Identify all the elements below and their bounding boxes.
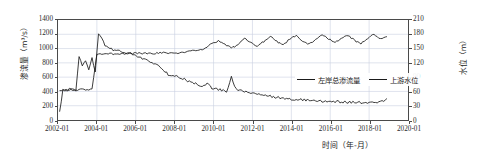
y-axis-left-tick-label: 1000 (27, 44, 53, 52)
y-axis-left-tick-mark (55, 63, 58, 64)
y-axis-right-tick-mark (409, 106, 412, 107)
x-axis-title: 时间（年-月） (322, 139, 373, 150)
y-axis-right-tick-label: 30 (413, 102, 420, 110)
x-axis-tick-mark (292, 121, 293, 124)
y-axis-left-tick-mark (55, 92, 58, 93)
y-axis-right-tick-mark (409, 34, 412, 35)
y-axis-right-tick-label: 60 (413, 88, 420, 96)
legend-label-seepage: 左岸总渗流量 (318, 74, 360, 85)
y-axis-right-tick-mark (409, 63, 412, 64)
y-axis-right-title: 水位（m） (457, 25, 468, 87)
y-axis-left-tick-label: 400 (27, 88, 53, 96)
y-axis-left-tick-mark (55, 34, 58, 35)
plot-area (57, 19, 409, 121)
x-axis-tick-mark (135, 121, 136, 124)
y-axis-left-tick-label: 200 (27, 102, 53, 110)
x-axis-tick-label: 2014-01 (273, 125, 311, 133)
x-axis-tick-label: 2008-01 (155, 125, 193, 133)
x-axis-tick-mark (57, 121, 58, 124)
series-lines (58, 20, 408, 120)
x-axis-tick-label: 2002-01 (38, 125, 76, 133)
legend-swatch-waterlevel (369, 79, 387, 80)
x-axis-tick-mark (174, 121, 175, 124)
y-axis-left-tick-label: 1400 (27, 15, 53, 23)
y-axis-left-tick-label: 0 (27, 117, 53, 125)
y-axis-left-tick-mark (55, 106, 58, 107)
x-axis-tick-mark (409, 121, 410, 124)
legend-item-seepage: 左岸总渗流量 (297, 74, 360, 85)
y-axis-left-tick-mark (55, 19, 58, 20)
x-axis-tick-mark (213, 121, 214, 124)
chart-legend: 左岸总渗流量 上游水位 (295, 73, 420, 86)
y-axis-right-tick-label: 210 (413, 15, 424, 23)
x-axis-tick-label: 2006-01 (116, 125, 154, 133)
x-axis-tick-label: 2010-01 (194, 125, 232, 133)
y-axis-left-tick-mark (55, 77, 58, 78)
x-axis-tick-mark (370, 121, 371, 124)
y-axis-right-tick-label: 0 (413, 117, 417, 125)
x-axis-tick-label: 2004-01 (77, 125, 115, 133)
y-axis-left-tick-label: 1200 (27, 29, 53, 37)
y-axis-left-tick-label: 800 (27, 59, 53, 67)
x-axis-tick-label: 2012-01 (234, 125, 272, 133)
legend-swatch-seepage (297, 79, 315, 80)
x-axis-tick-label: 2018-01 (351, 125, 389, 133)
y-axis-left-tick-mark (55, 48, 58, 49)
x-axis-tick-label: 2016-01 (312, 125, 350, 133)
y-axis-right-tick-label: 120 (413, 59, 424, 67)
x-axis-tick-mark (253, 121, 254, 124)
y-axis-right-tick-label: 150 (413, 44, 424, 52)
chart-figure: 左岸总渗流量 上游水位 渗流量（m³/s） 水位（m） 时间（年-月） 1400… (0, 0, 481, 156)
legend-label-waterlevel: 上游水位 (390, 74, 418, 85)
x-axis-tick-mark (331, 121, 332, 124)
y-axis-right-tick-mark (409, 19, 412, 20)
x-axis-tick-label: 2020-01 (390, 125, 428, 133)
y-axis-left-tick-label: 600 (27, 73, 53, 81)
y-axis-right-tick-mark (409, 48, 412, 49)
y-axis-right-tick-label: 180 (413, 29, 424, 37)
y-axis-right-tick-mark (409, 92, 412, 93)
legend-item-waterlevel: 上游水位 (369, 74, 418, 85)
x-axis-tick-mark (96, 121, 97, 124)
